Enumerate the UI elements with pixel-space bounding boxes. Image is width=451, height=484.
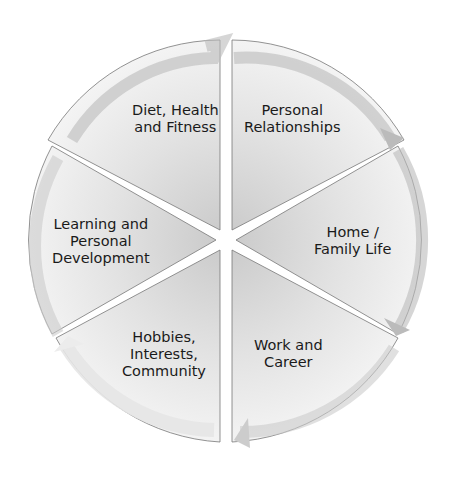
label-line: and Fitness — [132, 119, 219, 136]
segment-label-relationships: Personal Relationships — [244, 102, 341, 136]
label-line: Family Life — [314, 241, 391, 258]
label-line: Development — [52, 250, 150, 267]
label-line: Learning and — [52, 216, 150, 233]
label-line: Relationships — [244, 119, 341, 136]
label-line: Personal — [244, 102, 341, 119]
label-line: Interests, — [122, 346, 206, 363]
segment-label-diet: Diet, Health and Fitness — [132, 102, 219, 136]
life-balance-wheel: Diet, Health and Fitness Personal Relati… — [0, 0, 451, 484]
label-line: Community — [122, 363, 206, 380]
label-line: Diet, Health — [132, 102, 219, 119]
segment-label-home: Home / Family Life — [314, 224, 391, 258]
segment-label-learning: Learning and Personal Development — [52, 216, 150, 267]
label-line: Personal — [52, 233, 150, 250]
segment-label-work: Work and Career — [254, 337, 323, 371]
label-line: Work and — [254, 337, 323, 354]
label-line: Home / — [314, 224, 391, 241]
label-line: Career — [254, 354, 323, 371]
segment-label-hobbies: Hobbies, Interests, Community — [122, 329, 206, 380]
label-line: Hobbies, — [122, 329, 206, 346]
